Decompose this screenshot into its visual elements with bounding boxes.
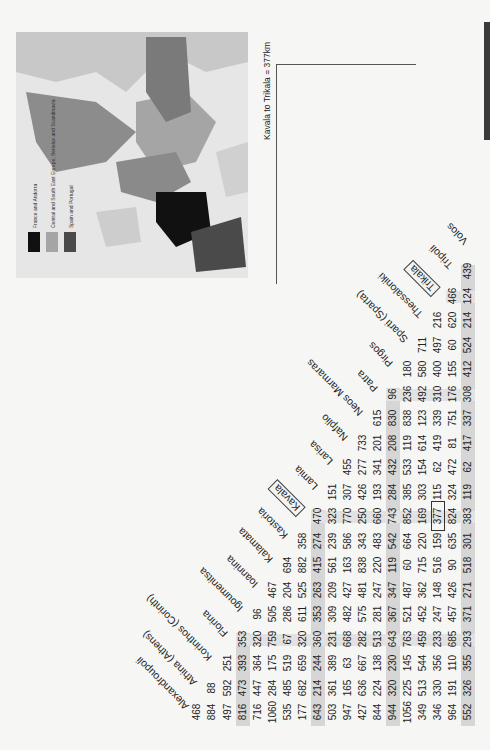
- distance-cell: 412: [462, 355, 474, 383]
- europe-map: France and Andorra Central and South Eas…: [16, 32, 248, 278]
- distance-cell: 308: [462, 380, 474, 408]
- legend-swatch-france: [28, 232, 40, 252]
- distance-cell: 505: [267, 600, 279, 628]
- distance-cell: 214: [312, 674, 324, 702]
- page-edge-tab: [484, 22, 490, 140]
- city-header: Florina: [199, 608, 230, 639]
- distance-cell: 356: [432, 649, 444, 677]
- distance-cell: 309: [327, 600, 339, 628]
- distance-cell: 231: [327, 625, 339, 653]
- city-header: Ioannina: [223, 553, 260, 590]
- distance-cell: 513: [372, 625, 384, 653]
- distance-cell: 472: [447, 453, 459, 481]
- distance-cell: 503: [327, 698, 339, 726]
- distance-cell: 62: [462, 453, 474, 481]
- distance-cell: 119: [387, 551, 399, 579]
- distance-cell: 383: [462, 502, 474, 530]
- distance-cell: 483: [372, 527, 384, 555]
- distance-cell: 455: [342, 453, 354, 481]
- distance-cell: 417: [462, 429, 474, 457]
- distance-cell: 882: [297, 551, 309, 579]
- distance-cell: 209: [327, 576, 339, 604]
- bracket-line-vertical: [276, 64, 277, 284]
- distance-cell: 470: [312, 502, 324, 530]
- distance-cell: 250: [357, 502, 369, 530]
- distance-cell: 191: [447, 674, 459, 702]
- distance-cell: 310: [432, 380, 444, 408]
- distance-cell: 659: [297, 649, 309, 677]
- city-header: Patra: [354, 368, 380, 394]
- city-header: Trikala: [404, 260, 440, 296]
- distance-cell: 225: [402, 674, 414, 702]
- distance-cell: 62: [432, 453, 444, 481]
- distance-cell: 660: [372, 502, 384, 530]
- distance-cell: 452: [417, 600, 429, 628]
- distance-cell: 60: [447, 331, 459, 359]
- distance-cell: 326: [462, 674, 474, 702]
- distance-cell: 1056: [402, 698, 414, 726]
- distance-cell: 307: [342, 478, 354, 506]
- city-header: Volos: [443, 220, 470, 247]
- distance-cell: 497: [222, 698, 234, 726]
- distance-cell: 816: [237, 698, 249, 726]
- example-note: Kavala to Trikala = 377km: [262, 42, 272, 140]
- distance-cell: 733: [357, 429, 369, 457]
- distance-cell: 667: [357, 649, 369, 677]
- distance-cell: 426: [357, 478, 369, 506]
- distance-cell: 201: [372, 429, 384, 457]
- distance-cell: 148: [432, 576, 444, 604]
- distance-cell: 611: [297, 600, 309, 628]
- distance-cell: 485: [282, 674, 294, 702]
- distance-cell: 439: [462, 257, 474, 285]
- distance-cell: 154: [417, 453, 429, 481]
- distance-cell: 176: [447, 380, 459, 408]
- distance-cell: 230: [387, 649, 399, 677]
- distance-cell: 251: [222, 649, 234, 677]
- distance-cell: 362: [417, 576, 429, 604]
- distance-cell: 244: [312, 649, 324, 677]
- distance-cell: 542: [387, 527, 399, 555]
- distance-cell: 165: [342, 674, 354, 702]
- distance-cell: 88: [206, 674, 218, 702]
- distance-cell: 282: [357, 625, 369, 653]
- distance-cell: 535: [282, 698, 294, 726]
- distance-cell: 320: [252, 625, 264, 653]
- distance-cell: 96: [252, 600, 264, 628]
- distance-cell: 247: [372, 576, 384, 604]
- distance-cell: 615: [372, 404, 384, 432]
- distance-cell: 393: [237, 649, 249, 677]
- distance-cell: 115: [432, 478, 444, 506]
- distance-cell: 67: [282, 625, 294, 653]
- distance-cell: 614: [417, 429, 429, 457]
- distance-cell: 620: [447, 306, 459, 334]
- distance-cell: 163: [342, 551, 354, 579]
- distance-cell: 715: [417, 551, 429, 579]
- bracket-line-horizontal: [276, 64, 416, 65]
- distance-cell: 320: [297, 625, 309, 653]
- distance-cell: 473: [237, 674, 249, 702]
- distance-cell: 301: [462, 527, 474, 555]
- distance-cell: 236: [402, 380, 414, 408]
- distance-cell: 668: [342, 625, 354, 653]
- distance-cell: 711: [417, 331, 429, 359]
- distance-cell: 694: [282, 551, 294, 579]
- distance-cell: 580: [417, 355, 429, 383]
- distance-cell: 664: [402, 527, 414, 555]
- city-header: Neos Marmaras: [304, 357, 365, 418]
- city-header: Kavala: [268, 480, 305, 517]
- distance-cell: 284: [267, 674, 279, 702]
- distance-cell: 177: [297, 698, 309, 726]
- distance-cell: 419: [432, 429, 444, 457]
- distance-cell: 743: [387, 502, 399, 530]
- distance-cell: 124: [462, 282, 474, 310]
- distance-cell: 427: [357, 698, 369, 726]
- distance-cell: 193: [372, 478, 384, 506]
- distance-cell: 852: [402, 502, 414, 530]
- distance-cell: 353: [237, 625, 249, 653]
- distance-cell: 447: [252, 674, 264, 702]
- distance-cell: 138: [372, 649, 384, 677]
- distance-cell: 830: [387, 404, 399, 432]
- distance-cell: 60: [402, 551, 414, 579]
- distance-cell: 367: [387, 600, 399, 628]
- distance-cell: 838: [357, 551, 369, 579]
